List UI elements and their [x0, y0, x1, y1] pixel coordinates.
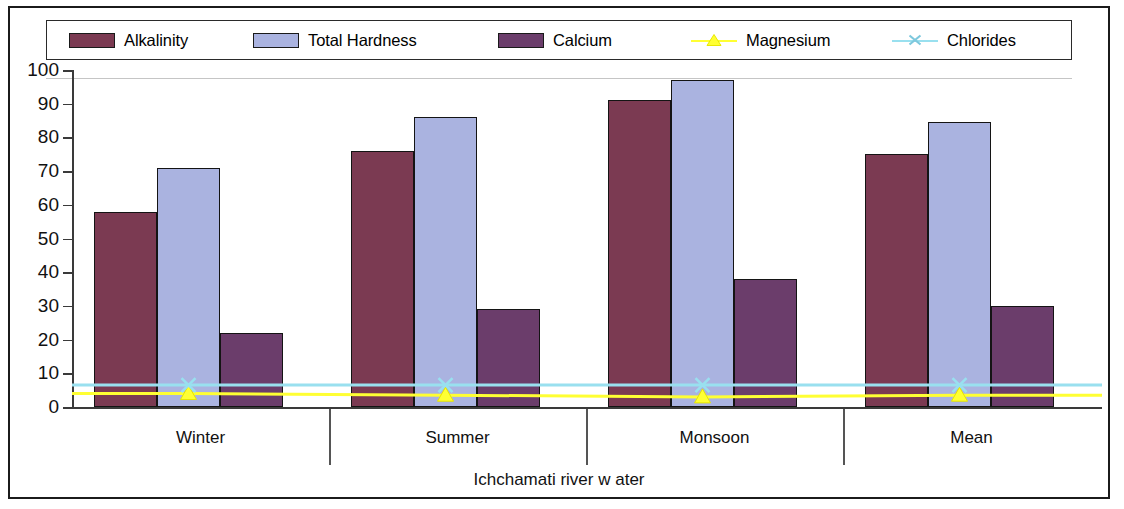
y-tick-mark [63, 104, 72, 106]
bar-group-mean [865, 70, 1054, 407]
bar-alkalinity-monsoon[interactable] [608, 100, 671, 407]
bar-calcium-mean[interactable] [991, 306, 1054, 407]
y-tick-mark [63, 205, 72, 207]
bar-total-hardness-mean[interactable] [928, 122, 991, 407]
y-tick-label: 70 [38, 160, 59, 182]
bar-series-layer [72, 70, 1100, 407]
y-tick-label: 60 [38, 194, 59, 216]
y-tick-label: 100 [27, 59, 59, 81]
y-tick-mark [63, 306, 72, 308]
x-axis-label-winter: Winter [72, 428, 329, 448]
bar-total-hardness-monsoon[interactable] [671, 80, 734, 407]
bar-group-summer [351, 70, 540, 407]
chart-page: Alkalinity Total Hardness Calcium Magnes… [0, 0, 1124, 509]
y-tick-label: 80 [38, 126, 59, 148]
bar-total-hardness-winter[interactable] [157, 168, 220, 407]
y-tick-label: 30 [38, 295, 59, 317]
y-tick-mark [63, 70, 72, 72]
chart-frame: Alkalinity Total Hardness Calcium Magnes… [8, 6, 1110, 499]
x-axis-label-mean: Mean [843, 428, 1100, 448]
bar-calcium-winter[interactable] [220, 333, 283, 407]
y-tick-mark [63, 407, 72, 409]
y-tick-mark [63, 239, 72, 241]
y-tick-label: 10 [38, 362, 59, 384]
bar-total-hardness-summer[interactable] [414, 117, 477, 407]
bar-calcium-monsoon[interactable] [734, 279, 797, 407]
y-tick-mark [63, 272, 72, 274]
x-axis-label-summer: Summer [329, 428, 586, 448]
bar-alkalinity-winter[interactable] [94, 212, 157, 407]
y-tick-label: 20 [38, 329, 59, 351]
bar-alkalinity-mean[interactable] [865, 154, 928, 407]
y-tick-mark [63, 373, 72, 375]
y-tick-label: 50 [38, 228, 59, 250]
x-axis-title: Ichchamati river w ater [10, 470, 1108, 490]
x-axis-label-monsoon: Monsoon [586, 428, 843, 448]
bar-group-winter [94, 70, 283, 407]
bar-group-monsoon [608, 70, 797, 407]
y-tick-label: 0 [48, 396, 59, 418]
y-tick-mark [63, 137, 72, 139]
bar-calcium-summer[interactable] [477, 309, 540, 407]
y-tick-mark [63, 171, 72, 173]
y-tick-mark [63, 340, 72, 342]
y-tick-label: 40 [38, 261, 59, 283]
y-tick-label: 90 [38, 93, 59, 115]
plot-area: 1009080706050403020100 WinterSummerMonso… [10, 8, 1108, 497]
bar-alkalinity-summer[interactable] [351, 151, 414, 407]
